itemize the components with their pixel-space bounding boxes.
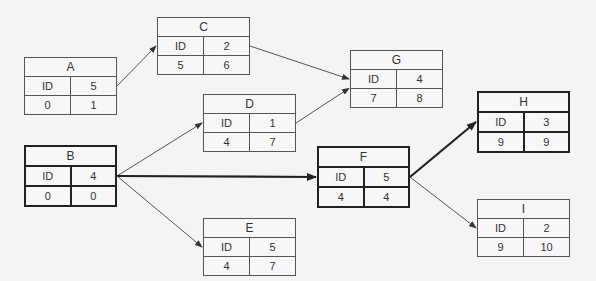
id-label: ID [204, 114, 249, 132]
edge-B-F [117, 176, 316, 177]
node-title: A [25, 58, 116, 77]
node-F: F ID5 44 [317, 146, 410, 208]
early-start: 4 [319, 188, 363, 206]
duration: 3 [523, 113, 569, 131]
duration: 2 [203, 37, 249, 55]
duration: 5 [363, 168, 409, 186]
early-start: 9 [479, 133, 523, 151]
early-start: 0 [25, 96, 70, 114]
duration: 4 [70, 167, 116, 185]
node-title: I [478, 200, 569, 219]
node-A: A ID5 01 [24, 57, 117, 115]
edge-B-E [117, 176, 202, 247]
edge-C-G [250, 46, 349, 79]
early-finish: 10 [523, 238, 569, 256]
id-label: ID [204, 238, 249, 256]
early-finish: 0 [70, 187, 116, 205]
early-start: 7 [351, 89, 396, 107]
early-start: 5 [158, 56, 203, 74]
edge-F-H [410, 122, 476, 177]
early-finish: 8 [396, 89, 442, 107]
edge-F-I [410, 177, 476, 228]
early-finish: 9 [523, 133, 569, 151]
duration: 5 [249, 238, 295, 256]
early-finish: 7 [249, 133, 295, 151]
node-G: G ID4 78 [350, 50, 443, 108]
edge-A-C [117, 46, 156, 86]
node-title: B [26, 147, 115, 167]
node-C: C ID2 56 [157, 17, 250, 75]
node-B: B ID4 00 [24, 145, 117, 207]
duration: 4 [396, 70, 442, 88]
node-D: D ID1 47 [203, 94, 296, 152]
node-title: E [204, 219, 295, 238]
id-label: ID [319, 168, 363, 186]
duration: 1 [249, 114, 295, 132]
duration: 2 [523, 219, 569, 237]
node-title: C [158, 18, 249, 37]
id-label: ID [479, 113, 523, 131]
early-start: 4 [204, 133, 249, 151]
early-finish: 4 [363, 188, 409, 206]
id-label: ID [158, 37, 203, 55]
node-title: D [204, 95, 295, 114]
edge-B-D [117, 123, 202, 176]
early-finish: 7 [249, 257, 295, 275]
early-start: 4 [204, 257, 249, 275]
id-label: ID [26, 167, 70, 185]
early-finish: 6 [203, 56, 249, 74]
id-label: ID [25, 77, 70, 95]
early-finish: 1 [70, 96, 116, 114]
node-I: I ID2 910 [477, 199, 570, 257]
node-title: H [479, 93, 568, 113]
node-title: F [319, 148, 408, 168]
edge-D-G [296, 88, 349, 123]
node-title: G [351, 51, 442, 70]
node-H: H ID3 99 [477, 91, 570, 153]
duration: 5 [70, 77, 116, 95]
id-label: ID [351, 70, 396, 88]
id-label: ID [478, 219, 523, 237]
node-E: E ID5 47 [203, 218, 296, 276]
early-start: 0 [26, 187, 70, 205]
early-start: 9 [478, 238, 523, 256]
